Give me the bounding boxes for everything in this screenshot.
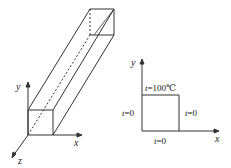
section-square (142, 95, 179, 131)
z-axis (13, 135, 28, 156)
long-edge-hidden (28, 35, 90, 135)
bottom-boundary-label: t=0 (154, 136, 167, 146)
long-edge-top-right (53, 9, 114, 110)
long-edge-bottom-right (53, 35, 114, 135)
y-axis-label: y (15, 81, 21, 92)
y-axis-arrow-icon (26, 82, 30, 87)
x-axis-2d-label: x (214, 133, 220, 144)
y-axis-2d-arrow-icon (140, 59, 144, 64)
z-axis-label: z (17, 155, 22, 166)
cross-section (140, 59, 219, 133)
left-boundary-label: t=0 (122, 108, 135, 118)
long-edge-top-left (28, 9, 90, 110)
diagram-canvas: y x z y x t=100℃ t=0 t=0 t=0 (0, 0, 231, 168)
bar-3d (28, 9, 114, 135)
x-axis-label: x (73, 137, 79, 148)
far-face-diagonal (94, 9, 114, 35)
right-boundary-label: t=0 (185, 108, 198, 118)
y-axis-2d-label: y (130, 57, 136, 68)
axes-3d (12, 82, 82, 158)
top-boundary-label: t=100℃ (145, 83, 176, 93)
